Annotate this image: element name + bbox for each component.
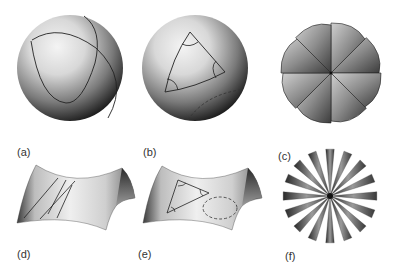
panel-b-sphere bbox=[142, 15, 248, 121]
starburst-wedge bbox=[330, 160, 366, 196]
label-d: (d) bbox=[17, 249, 30, 260]
panel-e-saddle bbox=[143, 166, 262, 230]
figure-canvas bbox=[0, 0, 400, 272]
label-e: (e) bbox=[138, 249, 151, 260]
label-f: (f) bbox=[285, 251, 295, 262]
panel-f-starburst bbox=[283, 149, 377, 243]
label-a: (a) bbox=[17, 147, 30, 158]
panel-d-saddle bbox=[17, 165, 135, 230]
panel-a-sphere bbox=[17, 15, 123, 121]
starburst-wedge bbox=[294, 196, 330, 232]
panel-c-pinwheel bbox=[281, 23, 381, 123]
label-b: (b) bbox=[143, 147, 156, 158]
starburst-wedge bbox=[330, 196, 366, 232]
starburst-wedge bbox=[294, 160, 330, 196]
label-c: (c) bbox=[278, 151, 291, 162]
